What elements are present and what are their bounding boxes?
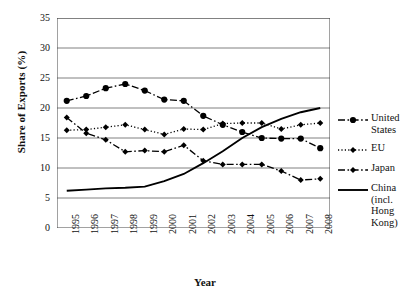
legend-item[interactable]: Japan [338, 162, 415, 175]
data-point-marker [239, 129, 245, 135]
data-point-marker [181, 126, 187, 132]
y-tick-label: 5 [22, 193, 50, 203]
y-tick-label: 35 [22, 13, 50, 23]
x-axis-title: Year [150, 276, 260, 288]
data-point-marker [122, 122, 128, 128]
data-point-marker [278, 168, 284, 174]
data-point-marker [317, 145, 323, 151]
data-point-marker [181, 98, 187, 104]
data-point-marker [239, 161, 245, 167]
data-point-marker [200, 127, 206, 133]
chart-figure: Share of Exports (%) Year 05101520253035… [0, 0, 415, 299]
data-point-marker [298, 177, 304, 183]
data-point-marker [64, 98, 70, 104]
data-point-marker [278, 136, 284, 142]
series-3 [64, 115, 324, 183]
data-point-marker [350, 167, 356, 173]
chart-canvas [57, 18, 330, 228]
data-point-marker [161, 149, 167, 155]
data-point-marker [103, 85, 109, 91]
series-1 [64, 81, 324, 151]
data-point-marker [142, 127, 148, 133]
y-tick-label: 10 [22, 163, 50, 173]
legend-swatch-icon [338, 142, 368, 154]
plot-area [57, 18, 330, 228]
data-point-marker [103, 124, 109, 130]
data-point-marker [259, 120, 265, 126]
series-4 [67, 108, 321, 191]
y-tick-label: 30 [22, 43, 50, 53]
legend-swatch-icon [338, 112, 368, 124]
y-tick-label: 20 [22, 103, 50, 113]
y-tick-label: 25 [22, 73, 50, 83]
data-point-marker [83, 130, 89, 136]
legend-item[interactable]: EU [338, 142, 415, 155]
data-point-marker [317, 120, 323, 126]
series-2 [64, 120, 324, 137]
data-point-marker [142, 88, 148, 94]
legend-label: EU [371, 142, 415, 154]
data-point-marker [317, 176, 323, 182]
data-point-marker [278, 126, 284, 132]
legend-label: China (incl. Hong Kong) [371, 182, 415, 228]
data-point-marker [64, 127, 70, 133]
legend-label: Japan [371, 162, 415, 174]
data-point-marker [83, 93, 89, 99]
y-tick-label: 0 [22, 223, 50, 233]
legend-swatch-icon [338, 182, 368, 194]
data-point-marker [350, 117, 356, 123]
data-point-marker [122, 149, 128, 155]
legend-item[interactable]: United States [338, 112, 415, 135]
legend-swatch-icon [338, 162, 368, 174]
data-point-marker [298, 136, 304, 142]
legend-item[interactable]: China (incl. Hong Kong) [338, 182, 415, 228]
data-point-marker [122, 81, 128, 87]
data-point-marker [298, 122, 304, 128]
data-point-marker [142, 148, 148, 154]
data-point-marker [259, 135, 265, 141]
data-point-marker [161, 131, 167, 137]
series-line [67, 108, 321, 191]
data-point-marker [200, 113, 206, 119]
y-tick-label: 15 [22, 133, 50, 143]
data-point-marker [161, 97, 167, 103]
data-point-marker [259, 161, 265, 167]
data-point-marker [239, 120, 245, 126]
legend-label: United States [371, 112, 415, 135]
data-point-marker [350, 147, 356, 153]
data-point-marker [181, 142, 187, 148]
chart-legend: United StatesEUJapanChina (incl. Hong Ko… [338, 112, 415, 235]
data-point-marker [220, 161, 226, 167]
